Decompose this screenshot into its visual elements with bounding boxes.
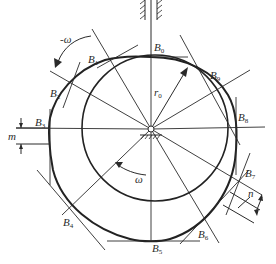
label-B0: B0 [154,41,165,55]
cam-diagram-svg: B0 B1 B2 B3 B4 B5 B6 B7 B8 B9 r0 -ω ω m … [0,0,276,264]
label-B4: B4 [63,216,74,230]
cam-diagram: B0 B1 B2 B3 B4 B5 B6 B7 B8 B9 r0 -ω ω m … [0,0,276,264]
label-B5: B5 [152,242,163,256]
label-n: n [248,187,254,199]
r0-arrow [151,67,188,129]
label-B6: B6 [198,228,209,242]
label-B9: B9 [210,69,221,83]
label-B2: B2 [50,87,61,101]
label-B7: B7 [245,167,256,181]
label-B3: B3 [35,116,46,130]
label-r0: r0 [154,86,162,100]
label-B1: B1 [88,53,99,67]
label-B8: B8 [238,111,249,125]
label-omega: ω [135,173,143,185]
label-neg-omega: -ω [60,33,72,45]
label-m: m [8,130,16,142]
